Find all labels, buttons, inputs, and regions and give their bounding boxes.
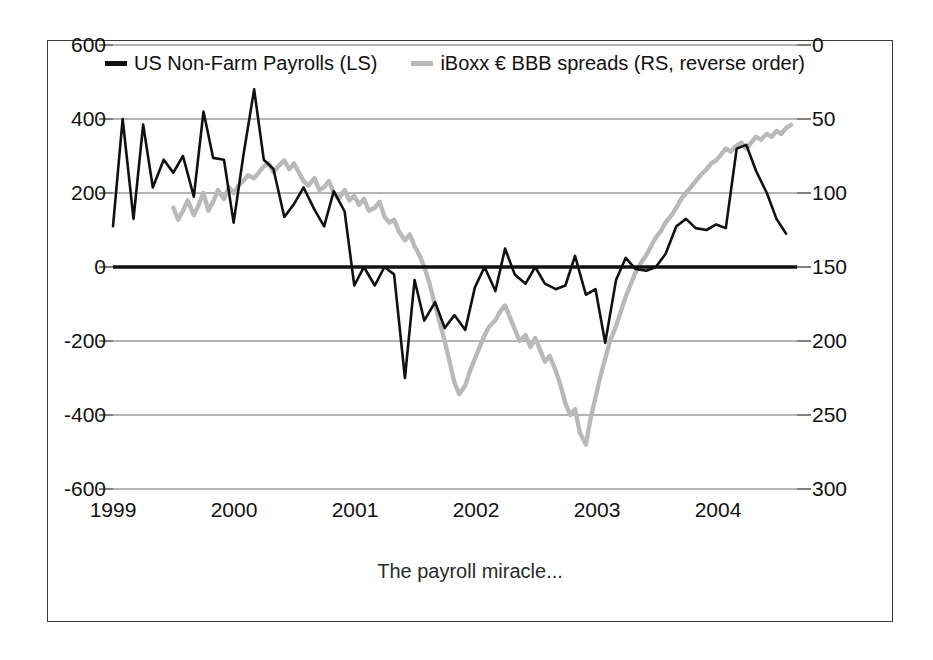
ytick-left-0: 0 [36,255,106,279]
ytick-right-100: 100 [812,181,882,205]
xtick-2002: 2002 [426,498,526,522]
xtick-2000: 2000 [184,498,284,522]
xtick-2003: 2003 [547,498,647,522]
legend-swatch-iboxx-icon [411,61,433,66]
ytick-right-50: 50 [812,107,882,131]
legend-label-payrolls: US Non-Farm Payrolls (LS) [134,52,377,75]
ytick-right-250: 250 [812,403,882,427]
legend-item-payrolls: US Non-Farm Payrolls (LS) [105,52,377,75]
ytick-left-200: 200 [36,181,106,205]
xtick-1999: 1999 [63,498,163,522]
chart-caption: The payroll miracle... [47,560,893,583]
xtick-2001: 2001 [305,498,405,522]
legend-item-iboxx: iBoxx € BBB spreads (RS, reverse order) [411,52,805,75]
ytick-right-0: 0 [812,33,882,57]
ytick-right-200: 200 [812,329,882,353]
series-us-non-farm-payrolls [113,89,786,378]
ytick-right-300: 300 [812,477,882,501]
ytick-left-neg400: -400 [36,403,106,427]
series-iboxx-bbb-spreads [173,125,791,445]
chart-figure: 600 400 200 0 -200 -400 -600 0 50 100 15… [0,0,933,660]
legend-swatch-payrolls-icon [105,61,127,66]
chart-legend: US Non-Farm Payrolls (LS) iBoxx € BBB sp… [113,52,797,75]
ytick-left-400: 400 [36,107,106,131]
ytick-right-150: 150 [812,255,882,279]
xtick-2004: 2004 [668,498,768,522]
ytick-left-600: 600 [36,33,106,57]
ytick-left-neg200: -200 [36,329,106,353]
legend-label-iboxx: iBoxx € BBB spreads (RS, reverse order) [440,52,805,75]
